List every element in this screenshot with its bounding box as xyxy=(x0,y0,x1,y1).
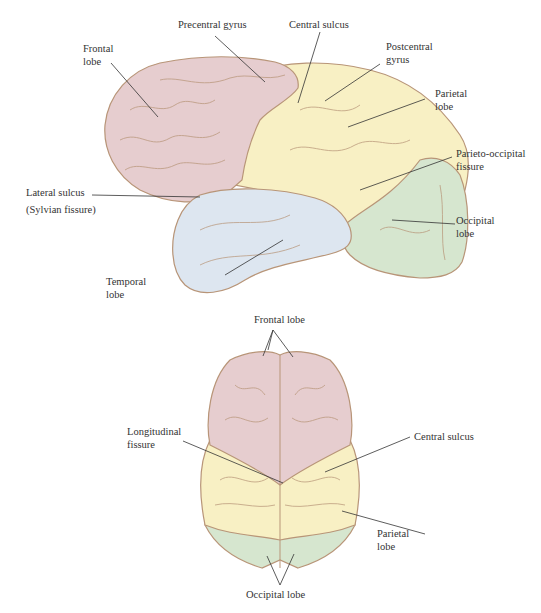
label-occipital-lobe-lateral: Occipital lobe xyxy=(456,214,494,240)
label-occipital-lobe-superior: Occipital lobe xyxy=(246,588,305,601)
label-parietal-lobe-superior: Parietal lobe xyxy=(377,527,409,553)
label-parieto-occipital-fissure: Parieto-occipital fissure xyxy=(456,147,525,173)
label-frontal-lobe-superior: Frontal lobe xyxy=(254,313,305,326)
label-frontal-lobe-lateral: Frontal lobe xyxy=(83,42,113,68)
label-longitudinal-fissure: Longitudinal fissure xyxy=(127,425,181,451)
label-central-sulcus-superior: Central sulcus xyxy=(414,430,474,443)
temporal-region xyxy=(173,189,352,293)
lateral-brain xyxy=(105,57,468,293)
superior-brain xyxy=(201,352,359,568)
label-precentral-gyrus: Precentral gyrus xyxy=(178,18,247,31)
label-parietal-lobe-lateral: Parietal lobe xyxy=(435,87,467,113)
label-central-sulcus-lateral: Central sulcus xyxy=(289,18,349,31)
label-temporal-lobe: Temporal lobe xyxy=(106,275,146,301)
label-postcentral-gyrus: Postcentral gyrus xyxy=(386,40,433,66)
label-lateral-sulcus: Lateral sulcus (Sylvian fissure) xyxy=(26,184,96,218)
